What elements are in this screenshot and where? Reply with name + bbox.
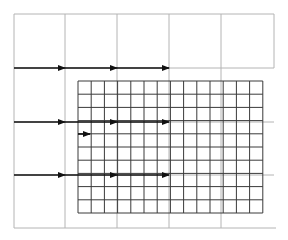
- grid-diagram: [0, 0, 288, 240]
- fine-grid: [78, 81, 263, 213]
